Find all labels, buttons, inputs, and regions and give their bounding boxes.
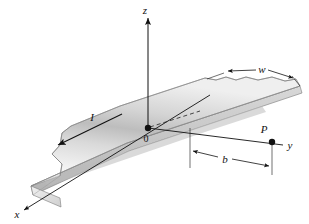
z-axis-label: z [142,4,148,16]
field-point-label: P [260,123,268,135]
distance-arrow-left [193,151,218,157]
distance-label: b [222,153,228,165]
distance-arrow-right [232,159,269,166]
current-strip-diagram: z x y 0 I [0,0,309,224]
x-axis-label: x [14,208,20,220]
figure-root: z x y 0 I [0,0,309,224]
width-arrow-left [228,70,256,71]
origin-label: 0 [144,133,149,144]
origin-dot [145,125,151,131]
y-axis-label: y [287,139,293,151]
field-point: P [260,123,276,145]
width-label: w [258,63,266,75]
field-point-dot [269,139,275,145]
